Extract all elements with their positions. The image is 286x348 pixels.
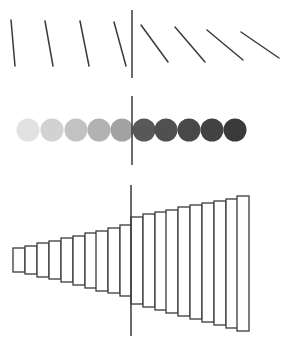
gray-circle	[178, 119, 201, 142]
bar-rect	[131, 217, 143, 304]
diagram-canvas	[0, 0, 286, 348]
bar-rect	[13, 248, 25, 272]
orientation-lines-panel	[11, 10, 279, 78]
gray-circle	[65, 119, 88, 142]
bar-rect	[178, 207, 190, 316]
bar-rect	[202, 203, 214, 322]
bar-rect	[190, 205, 202, 319]
tilted-line	[207, 30, 243, 60]
gray-circle	[133, 119, 156, 142]
gray-circle	[155, 119, 178, 142]
bar-rect	[108, 228, 120, 293]
gray-circles-panel	[17, 96, 247, 165]
bar-rect	[73, 236, 85, 285]
gray-circle	[201, 119, 224, 142]
tilted-line	[241, 32, 279, 58]
bar-rect	[226, 199, 238, 328]
bar-rect	[85, 233, 97, 288]
bar-rect	[214, 201, 226, 325]
gray-circle	[41, 119, 64, 142]
bar-rect	[25, 246, 37, 274]
tilted-line	[141, 25, 168, 62]
bar-rect	[166, 210, 178, 313]
tilted-line	[11, 20, 15, 66]
bar-rect	[143, 214, 155, 307]
bar-rect	[61, 238, 73, 282]
tilted-line	[45, 21, 53, 66]
tilted-line	[175, 27, 205, 62]
gray-circle	[224, 119, 247, 142]
gray-circle	[88, 119, 111, 142]
size-bars-panel	[13, 185, 249, 336]
bar-rect	[120, 225, 132, 296]
bar-rect	[96, 231, 108, 291]
bar-rect	[37, 243, 49, 277]
bar-rect	[237, 196, 249, 331]
tilted-line	[114, 22, 126, 66]
bar-rect	[49, 241, 61, 279]
gray-circle	[17, 119, 40, 142]
gray-circle	[111, 119, 134, 142]
tilted-line	[80, 21, 89, 66]
bar-rect	[155, 212, 167, 310]
